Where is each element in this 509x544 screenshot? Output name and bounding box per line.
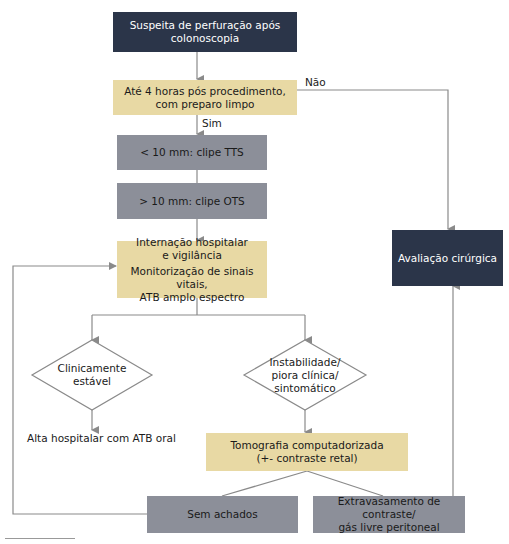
admission-line-1: Internação hospitalar bbox=[136, 236, 248, 249]
edge-label-no: Não bbox=[305, 76, 326, 88]
stable-line-1: Clinicamente bbox=[58, 362, 127, 375]
unstable-line-1: Instabilidade/ bbox=[270, 356, 341, 369]
surgical-eval-text: Avaliação cirúrgica bbox=[398, 252, 497, 265]
unstable-decision: Instabilidade/ piora clínica/ sintomátic… bbox=[255, 350, 355, 400]
leak-line-2: gás livre peritoneal bbox=[338, 521, 439, 534]
admission-line-4: ATB amplo espectro bbox=[140, 291, 245, 304]
edge-label-yes: Sim bbox=[202, 117, 222, 129]
clip-tts-text: < 10 mm: clipe TTS bbox=[140, 146, 244, 159]
clip-ots-node: > 10 mm: clipe OTS bbox=[117, 183, 267, 219]
admission-node: Internação hospitalar e vigilância Monit… bbox=[117, 241, 267, 298]
stable-decision: Clinicamente estável bbox=[42, 355, 142, 395]
time-check-node: Até 4 horas pós procedimento, com prepar… bbox=[113, 80, 297, 115]
ct-scan-line-2: (+- contraste retal) bbox=[256, 452, 357, 465]
surgical-eval-node: Avaliação cirúrgica bbox=[392, 230, 503, 286]
start-line-2: colonoscopia bbox=[171, 32, 239, 45]
time-check-line-2: com preparo limpo bbox=[155, 98, 254, 111]
stable-line-2: estável bbox=[73, 375, 111, 388]
admission-line-2: e vigilância bbox=[162, 249, 222, 262]
time-check-line-1: Até 4 horas pós procedimento, bbox=[124, 85, 286, 98]
discharge-text: Alta hospitalar com ATB oral bbox=[27, 432, 176, 444]
clip-ots-text: > 10 mm: clipe OTS bbox=[139, 195, 245, 208]
ct-scan-line-1: Tomografia computadorizada bbox=[230, 439, 383, 452]
admission-line-3: Monitorização de sinais vitais, bbox=[117, 265, 267, 291]
leak-node: Extravasamento de contraste/ gás livre p… bbox=[313, 496, 465, 533]
no-findings-node: Sem achados bbox=[147, 496, 298, 533]
unstable-line-2: piora clínica/ bbox=[271, 369, 338, 382]
clip-tts-node: < 10 mm: clipe TTS bbox=[117, 135, 267, 170]
footnote-divider bbox=[5, 538, 75, 539]
start-node: Suspeita de perfuração após colonoscopia bbox=[113, 12, 297, 52]
leak-line-1: Extravasamento de contraste/ bbox=[313, 495, 465, 521]
ct-scan-node: Tomografia computadorizada (+- contraste… bbox=[206, 433, 408, 471]
start-line-1: Suspeita de perfuração após bbox=[130, 19, 281, 32]
no-findings-text: Sem achados bbox=[187, 508, 258, 521]
unstable-line-3: sintomático bbox=[274, 382, 335, 395]
